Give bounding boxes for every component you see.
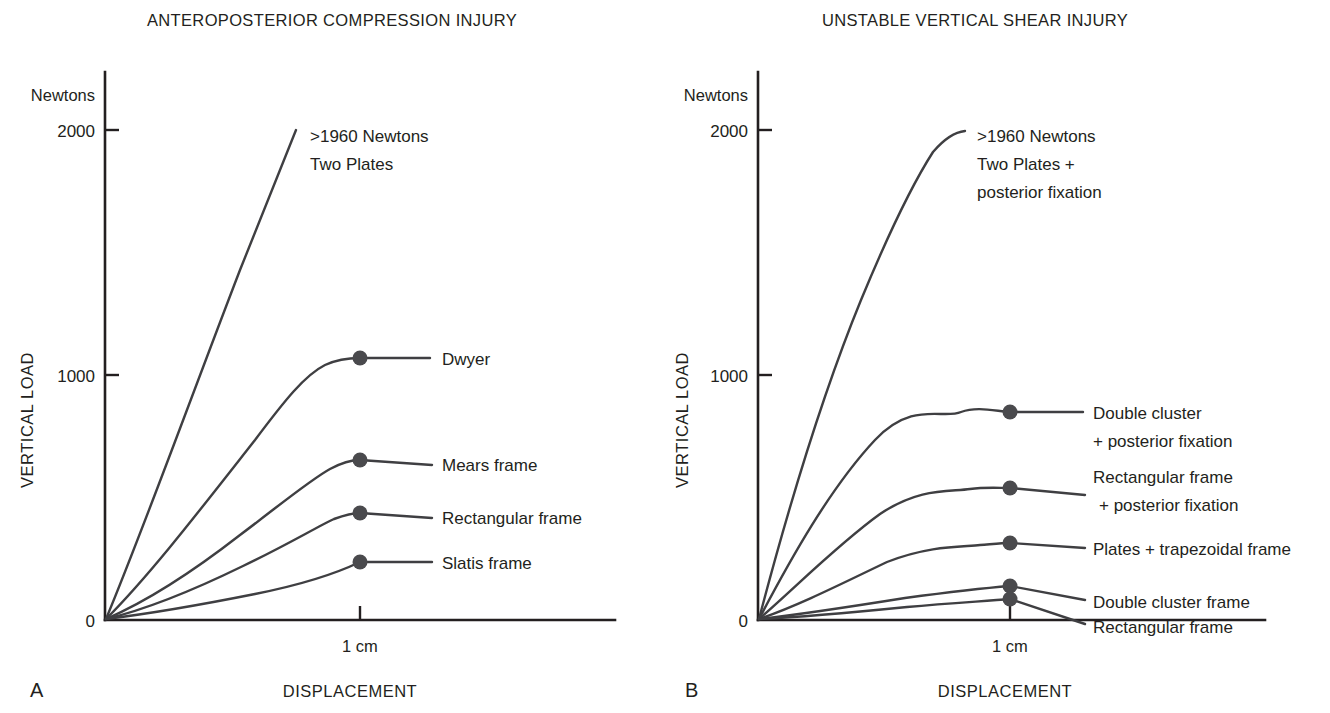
annotation-two-plates-pf-line3: posterior fixation (977, 183, 1102, 202)
marker-plates-trapezoidal-frame (1003, 536, 1018, 551)
panel-b-xtick-label-1cm: 1 cm (992, 637, 1028, 655)
panel-a-ytick-label-2000: 2000 (57, 122, 95, 141)
leader-rectangular-frame (360, 513, 432, 518)
series-label-rectangular-frame-b: Rectangular frame (1093, 618, 1233, 637)
series-label-rect-frame-b-cont: + posterior fixation (1099, 496, 1238, 515)
curve-plates-trapezoidal-frame (759, 543, 1010, 619)
series-label-double-cluster: Double cluster (1093, 404, 1202, 423)
curve-dwyer (106, 358, 360, 619)
figure-canvas: ANTEROPOSTERIOR COMPRESSION INJURY Newto… (0, 0, 1330, 713)
series-label-dwyer: Dwyer (442, 350, 491, 369)
leader-double-cluster-frame (1010, 586, 1085, 600)
panel-b-title: UNSTABLE VERTICAL SHEAR INJURY (822, 11, 1128, 29)
series-label-mears-frame: Mears frame (442, 456, 537, 475)
panel-b-ytick-label-0: 0 (739, 612, 748, 631)
marker-rectangular-frame-b (1003, 592, 1018, 607)
panel-b-ytick-label-2000: 2000 (710, 122, 748, 141)
curve-two-plates (106, 130, 296, 619)
panel-a-plot: ANTEROPOSTERIOR COMPRESSION INJURY Newto… (0, 0, 665, 713)
curve-rectangular-frame (106, 513, 360, 619)
marker-rectangular-frame (353, 506, 368, 521)
series-label-rect-frame-b: Rectangular frame (1093, 468, 1233, 487)
series-label-rectangular-frame: Rectangular frame (442, 509, 582, 528)
curve-mears-frame (106, 460, 360, 619)
marker-slatis-frame (353, 555, 368, 570)
marker-dwyer (353, 351, 368, 366)
panel-b: UNSTABLE VERTICAL SHEAR INJURY Newtons 2… (665, 0, 1330, 713)
curve-double-cluster-posterior-fixation (759, 409, 1010, 619)
panel-b-ytick-label-1000: 1000 (710, 367, 748, 386)
panel-a: ANTEROPOSTERIOR COMPRESSION INJURY Newto… (0, 0, 665, 713)
marker-mears-frame (353, 453, 368, 468)
annotation-two-plates-pf-line1: >1960 Newtons (977, 127, 1096, 146)
series-label-double-cluster-cont: + posterior fixation (1093, 432, 1232, 451)
marker-rectangular-frame-posterior-fixation (1003, 481, 1018, 496)
panel-b-plot: UNSTABLE VERTICAL SHEAR INJURY Newtons 2… (665, 0, 1330, 713)
panel-a-xtick-label-1cm: 1 cm (342, 637, 378, 655)
curve-two-plates-posterior-fixation (759, 131, 965, 619)
panel-b-x-axis-title: DISPLACEMENT (938, 682, 1072, 700)
annotation-two-plates-pf-line2: Two Plates + (977, 155, 1075, 174)
annotation-two-plates-line1: >1960 Newtons (310, 127, 429, 146)
panel-a-x-axis-title: DISPLACEMENT (283, 682, 417, 700)
panel-a-ytick-label-0: 0 (86, 612, 95, 631)
leader-plates-trapezoidal-frame (1010, 543, 1085, 548)
leader-mears-frame (360, 460, 432, 465)
series-label-slatis-frame: Slatis frame (442, 554, 532, 573)
panel-b-y-axis-title: VERTICAL LOAD (673, 352, 691, 488)
series-label-double-cluster-frame: Double cluster frame (1093, 593, 1250, 612)
panel-a-title: ANTEROPOSTERIOR COMPRESSION INJURY (147, 11, 517, 29)
panel-a-y-axis-title: VERTICAL LOAD (18, 352, 36, 488)
marker-double-cluster-posterior-fixation (1003, 405, 1018, 420)
leader-rectangular-frame-posterior-fixation (1010, 488, 1085, 495)
panel-a-letter: A (30, 679, 44, 701)
series-label-plates-trapezoidal: Plates + trapezoidal frame (1093, 540, 1291, 559)
panel-b-letter: B (685, 679, 698, 701)
panel-a-y-unit-label: Newtons (31, 86, 95, 104)
panel-a-ytick-label-1000: 1000 (57, 367, 95, 386)
marker-double-cluster-frame (1003, 579, 1018, 594)
annotation-two-plates-line2: Two Plates (310, 155, 393, 174)
curve-rectangular-frame-posterior-fixation (759, 488, 1010, 619)
panel-b-y-unit-label: Newtons (684, 86, 748, 104)
